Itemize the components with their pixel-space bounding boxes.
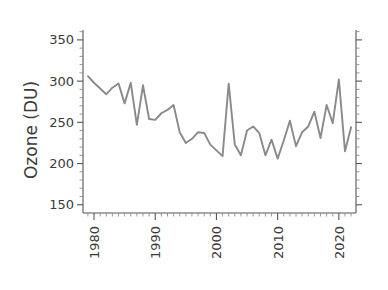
x-tick-label: 2000 [209,226,224,259]
y-tick-label: 250 [49,115,74,130]
x-axis-ticks [88,213,351,220]
ozone-series-line [88,76,351,158]
y-axis-ticks [77,32,83,205]
y-axis-ticks-right [356,32,362,205]
y-tick-label: 300 [49,74,74,89]
y-tick-label: 150 [49,197,74,212]
ozone-time-series-chart: Ozone (DU) 150200250300350 1980199020002… [0,0,388,290]
y-tick-label: 200 [49,156,74,171]
x-axis-tick-labels: 19801990200020102020 [87,226,347,259]
y-axis-tick-labels: 150200250300350 [49,32,74,212]
x-tick-label: 1980 [87,226,102,259]
x-tick-label: 2010 [271,226,286,259]
x-tick-label: 1990 [148,226,163,259]
y-tick-label: 350 [49,32,74,47]
x-tick-label: 2020 [332,226,347,259]
y-axis-title: Ozone (DU) [21,81,41,179]
chart-svg: Ozone (DU) 150200250300350 1980199020002… [0,0,388,290]
